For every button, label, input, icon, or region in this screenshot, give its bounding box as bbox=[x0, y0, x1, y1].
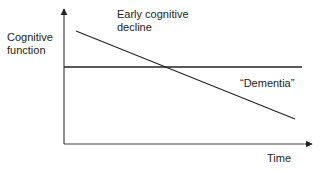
cognitive-decline-line bbox=[76, 31, 295, 119]
early-decline-label-line1: Early cognitive bbox=[117, 8, 189, 21]
dementia-label: “Dementia” bbox=[240, 77, 294, 90]
y-axis-label: Cognitive function bbox=[7, 31, 53, 57]
x-axis-label: Time bbox=[267, 152, 291, 165]
y-axis-label-line1: Cognitive bbox=[7, 31, 53, 44]
y-axis-label-line2: function bbox=[7, 44, 53, 57]
early-decline-label-line2: decline bbox=[117, 21, 189, 34]
early-decline-label: Early cognitive decline bbox=[117, 8, 189, 34]
